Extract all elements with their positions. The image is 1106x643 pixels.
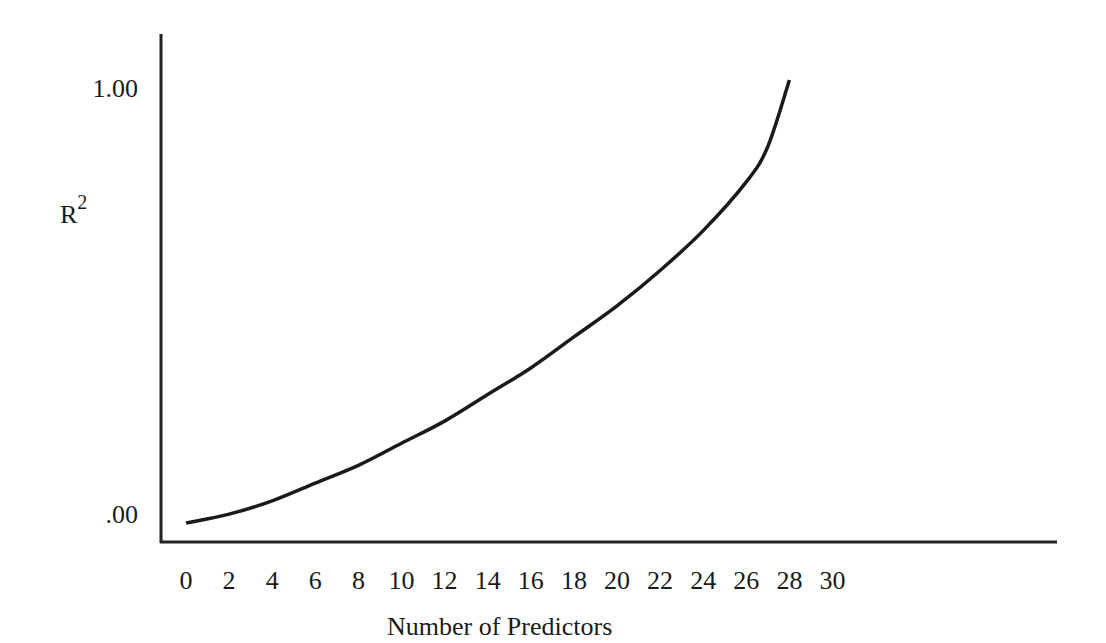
x-tick-18: 18 (561, 566, 587, 596)
y-tick-top: 1.00 (18, 76, 138, 102)
x-tick-6: 6 (309, 566, 322, 596)
x-tick-8: 8 (352, 566, 365, 596)
x-tick-4: 4 (266, 566, 279, 596)
x-tick-16: 16 (518, 566, 544, 596)
x-tick-0: 0 (180, 566, 193, 596)
y-axis-label-base: R (60, 200, 77, 229)
r-squared-curve (186, 80, 789, 523)
y-axis-label: R2 (60, 196, 87, 228)
x-tick-20: 20 (604, 566, 630, 596)
y-axis-label-superscript: 2 (77, 191, 87, 213)
x-tick-2: 2 (223, 566, 236, 596)
x-tick-28: 28 (776, 566, 802, 596)
x-tick-24: 24 (690, 566, 716, 596)
chart-canvas (0, 0, 1106, 643)
x-tick-12: 12 (432, 566, 458, 596)
x-tick-26: 26 (733, 566, 759, 596)
y-tick-bottom: .00 (18, 502, 138, 528)
x-tick-22: 22 (647, 566, 673, 596)
x-tick-10: 10 (389, 566, 415, 596)
x-tick-14: 14 (475, 566, 501, 596)
x-axis-label: Number of Predictors (387, 614, 612, 640)
x-tick-30: 30 (820, 566, 846, 596)
